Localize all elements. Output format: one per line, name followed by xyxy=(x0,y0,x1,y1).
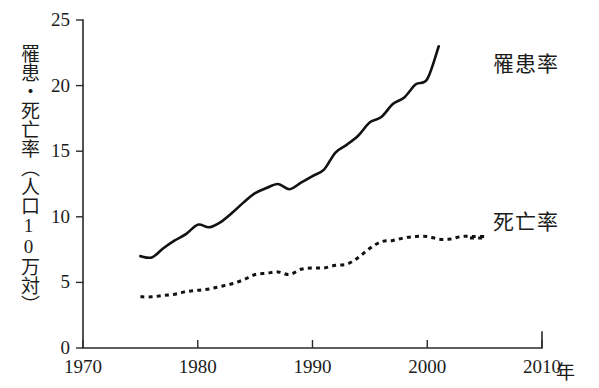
x-tick-label: 1970 xyxy=(48,357,118,376)
x-axis-unit-label: 年 xyxy=(556,357,575,384)
y-tick-label: 15 xyxy=(28,141,70,160)
axis-frame xyxy=(83,20,542,348)
y-tick-label: 0 xyxy=(28,338,70,357)
y-tick-label: 20 xyxy=(28,76,70,95)
chart-container: 罹患・死亡率（人口10万対） 0510152025 19701980199020… xyxy=(0,0,599,388)
y-tick-label: 5 xyxy=(28,272,70,291)
series-line-incidence xyxy=(140,46,438,258)
series-line-mortality xyxy=(140,236,484,297)
x-tick-label: 1990 xyxy=(278,357,348,376)
y-axis-ticks xyxy=(76,20,83,348)
x-tick-label: 1980 xyxy=(163,357,233,376)
y-tick-label: 25 xyxy=(28,10,70,29)
legend-label-incidence: 罹患率 xyxy=(493,47,559,77)
y-tick-label: 10 xyxy=(28,207,70,226)
legend-label-mortality: 死亡率 xyxy=(493,205,559,235)
x-axis-ticks xyxy=(83,340,542,348)
x-tick-label: 2000 xyxy=(392,357,462,376)
